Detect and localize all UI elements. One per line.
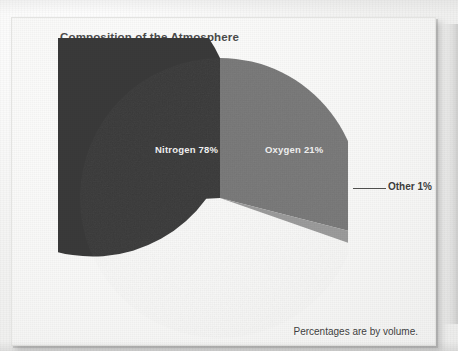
pie-label-nitrogen: Nitrogen 78% xyxy=(155,144,218,155)
pie-chart: Nitrogen 78% Oxygen 21% xyxy=(58,38,348,338)
pie-label-oxygen: Oxygen 21% xyxy=(265,144,324,155)
other-callout-label: Other 1% xyxy=(388,181,432,192)
pie-grain-overlay xyxy=(80,58,348,338)
other-callout-leader-line xyxy=(353,188,386,189)
chart-footnote: Percentages are by volume. xyxy=(293,326,418,337)
chart-card: Composition of the Atmosphere xyxy=(11,17,436,346)
pie-chart-svg: Nitrogen 78% Oxygen 21% xyxy=(58,38,348,338)
